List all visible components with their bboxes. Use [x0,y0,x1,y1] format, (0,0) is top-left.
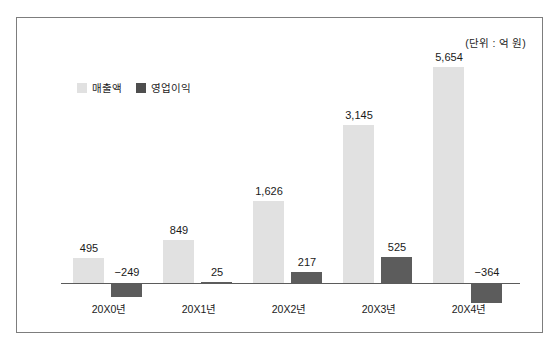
bar-profit-20X3 [381,257,412,283]
bar-group-20X4: 5,654 −364 20X4년 [427,18,511,334]
bar-label-profit-20X2: 217 [281,256,333,268]
bar-profit-20X2 [291,272,322,283]
bar-label-revenue-20X2: 1,626 [243,185,295,197]
bar-profit-20X0 [111,284,142,297]
bar-revenue-20X4 [433,67,464,283]
bar-revenue-20X3 [343,125,374,283]
bar-revenue-20X1 [163,240,194,283]
plot-area: 495 −249 20X0년 849 25 20X1년 1,626 217 20… [17,18,542,332]
bar-group-20X2: 1,626 217 20X2년 [247,18,331,334]
bar-profit-20X1 [201,282,232,284]
bar-label-profit-20X4: −364 [461,266,513,278]
chart-frame: (단위 : 억 원) 매출액 영업이익 495 −249 20X0년 849 2… [16,17,543,333]
bar-revenue-20X2 [253,201,284,283]
bar-label-revenue-20X4: 5,654 [423,51,475,63]
bar-group-20X0: 495 −249 20X0년 [67,18,151,334]
bar-label-revenue-20X0: 495 [63,242,115,254]
bar-label-profit-20X1: 25 [191,266,243,278]
bar-label-revenue-20X3: 3,145 [333,109,385,121]
category-label-20X1: 20X1년 [157,301,241,316]
category-label-20X4: 20X4년 [427,301,511,316]
bar-group-20X3: 3,145 525 20X3년 [337,18,421,334]
bar-group-20X1: 849 25 20X1년 [157,18,241,334]
category-label-20X2: 20X2년 [247,301,331,316]
bar-revenue-20X0 [73,258,104,283]
category-label-20X0: 20X0년 [67,301,151,316]
category-label-20X3: 20X3년 [337,301,421,316]
bar-label-revenue-20X1: 849 [153,224,205,236]
bar-label-profit-20X3: 525 [371,241,423,253]
bar-label-profit-20X0: −249 [101,266,153,278]
